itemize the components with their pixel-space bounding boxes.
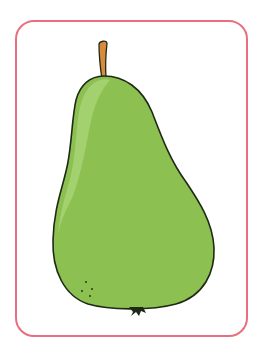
pear-body xyxy=(53,76,214,309)
pear-blossom-end xyxy=(129,307,146,316)
pear-stem xyxy=(99,41,107,79)
pear-icon xyxy=(0,0,261,358)
